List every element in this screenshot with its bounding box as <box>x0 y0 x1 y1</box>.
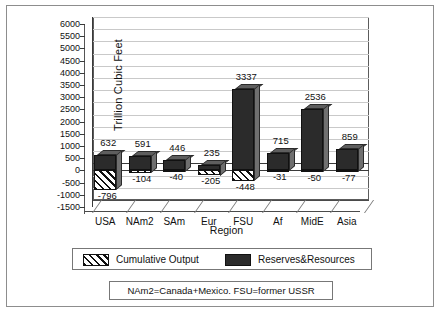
figure: 6000550050004500400035003000250020001500… <box>0 0 442 318</box>
bar-side-face <box>151 151 157 173</box>
y-tick-label: 500 <box>40 154 80 163</box>
y-tick-label: 4500 <box>40 57 80 66</box>
value-label-negative: -77 <box>333 173 365 183</box>
footnote-text: NAm2=Canada+Mexico. FSU=former USSR <box>127 285 314 296</box>
plot-area: 6000550050004500400035003000250020001500… <box>84 17 369 213</box>
bar-fsu <box>232 17 254 200</box>
bar-negative-segment <box>232 170 254 181</box>
value-label-negative: -31 <box>264 172 296 182</box>
value-label-positive: 632 <box>93 138 123 148</box>
value-label-negative: -104 <box>126 174 158 184</box>
value-label-negative: -40 <box>160 172 192 182</box>
bar-positive-segment <box>232 89 254 170</box>
plot-floor <box>84 200 369 213</box>
y-tick-label: 3500 <box>40 81 80 90</box>
footnote-box: NAm2=Canada+Mexico. FSU=former USSR <box>109 281 333 300</box>
hatch-swatch-icon <box>83 254 109 266</box>
bar-eur <box>198 17 220 200</box>
value-label-positive: 859 <box>335 132 365 142</box>
value-label-positive: 591 <box>128 139 158 149</box>
value-label-positive: 446 <box>162 143 192 153</box>
bar-positive-segment <box>94 155 116 170</box>
y-tick-label: 2000 <box>40 118 80 127</box>
legend: Cumulative Output Reserves&Resources <box>72 248 372 270</box>
solid-swatch-icon <box>225 254 251 266</box>
y-tick-label: -500 <box>40 179 80 188</box>
legend-label: Cumulative Output <box>116 254 199 265</box>
value-label-positive: 235 <box>197 148 227 158</box>
bar-usa <box>94 17 116 200</box>
value-label-positive: 3337 <box>231 72 261 82</box>
bar-side-face <box>116 150 122 190</box>
legend-item-reserves-resources: Reserves&Resources <box>225 253 355 266</box>
y-tick-label: 4000 <box>40 69 80 78</box>
value-label-negative: -50 <box>298 173 330 183</box>
x-axis-title: Region <box>84 224 369 236</box>
bar-side-face <box>289 148 295 171</box>
y-tick-label: 5000 <box>40 44 80 53</box>
value-label-positive: 715 <box>266 136 296 146</box>
bar-side-face <box>254 84 260 181</box>
y-tick-label: -1000 <box>40 191 80 200</box>
y-tick-label: 5500 <box>40 32 80 41</box>
bar-positive-segment <box>163 160 185 171</box>
value-label-negative: -448 <box>229 182 261 192</box>
bar-positive-segment <box>336 149 358 170</box>
y-tick-label: -1500 <box>40 203 80 212</box>
y-tick-label: 1000 <box>40 142 80 151</box>
bar-positive-segment <box>129 156 151 170</box>
y-tick-label: 0 <box>40 166 80 175</box>
y-tick-label: 2500 <box>40 105 80 114</box>
value-label-negative: -796 <box>91 191 123 201</box>
y-tick-label: 3000 <box>40 93 80 102</box>
y-tick-label: 1500 <box>40 130 80 139</box>
legend-item-cumulative-output: Cumulative Output <box>83 253 199 266</box>
bar-positive-segment <box>301 109 323 171</box>
bar-side-face <box>323 103 329 171</box>
bar-positive-segment <box>267 153 289 170</box>
value-label-positive: 2536 <box>300 92 330 102</box>
bar-negative-segment <box>94 170 116 189</box>
y-tick-label: 6000 <box>40 20 80 29</box>
bar-side-face <box>358 144 364 172</box>
legend-label: Reserves&Resources <box>258 254 355 265</box>
value-label-negative: -205 <box>195 176 227 186</box>
